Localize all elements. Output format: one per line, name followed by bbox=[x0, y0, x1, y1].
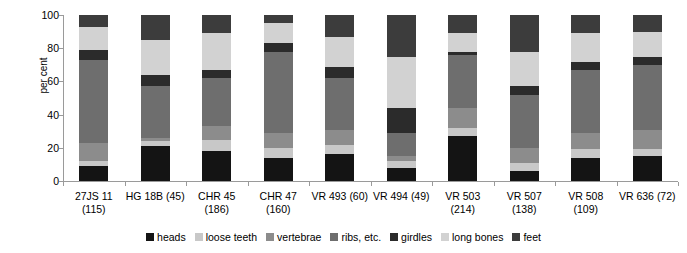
stacked-bar[interactable] bbox=[79, 15, 108, 181]
bar-segment[interactable] bbox=[387, 133, 416, 156]
stacked-bar[interactable] bbox=[510, 15, 539, 181]
bar-group[interactable] bbox=[141, 15, 170, 181]
bar-segment[interactable] bbox=[633, 32, 662, 57]
bar-segment[interactable] bbox=[141, 146, 170, 181]
bar-segment[interactable] bbox=[202, 15, 231, 33]
bar-segment[interactable] bbox=[571, 133, 600, 150]
legend-item[interactable]: heads bbox=[146, 231, 186, 243]
bar-segment[interactable] bbox=[448, 136, 477, 181]
bar-segment[interactable] bbox=[448, 33, 477, 51]
legend-label: heads bbox=[157, 231, 186, 243]
bar-segment[interactable] bbox=[202, 70, 231, 78]
bar-segment[interactable] bbox=[325, 37, 354, 67]
bar-segment[interactable] bbox=[387, 168, 416, 181]
bar-group[interactable] bbox=[633, 15, 662, 181]
stacked-bar[interactable] bbox=[141, 15, 170, 181]
bar-group[interactable] bbox=[325, 15, 354, 181]
bar-segment[interactable] bbox=[141, 40, 170, 75]
bar-segment[interactable] bbox=[387, 108, 416, 133]
bar-segment[interactable] bbox=[510, 171, 539, 181]
legend-label: loose teeth bbox=[206, 231, 257, 243]
stacked-bar[interactable] bbox=[387, 15, 416, 181]
bar-segment[interactable] bbox=[571, 33, 600, 61]
bar-segment[interactable] bbox=[510, 95, 539, 148]
bar-segment[interactable] bbox=[448, 128, 477, 136]
x-tick-label-line: VR 636 (72) bbox=[602, 190, 687, 203]
bar-segment[interactable] bbox=[141, 75, 170, 87]
bar-segment[interactable] bbox=[510, 15, 539, 52]
bar-segment[interactable] bbox=[264, 133, 293, 148]
bar-group[interactable] bbox=[510, 15, 539, 181]
bar-segment[interactable] bbox=[633, 149, 662, 156]
bar-segment[interactable] bbox=[264, 52, 293, 133]
legend-item[interactable]: girdles bbox=[390, 231, 432, 243]
bar-group[interactable] bbox=[202, 15, 231, 181]
bar-segment[interactable] bbox=[79, 15, 108, 27]
bar-segment[interactable] bbox=[448, 108, 477, 128]
stacked-bar[interactable] bbox=[202, 15, 231, 181]
bar-segment[interactable] bbox=[325, 78, 354, 129]
bar-segment[interactable] bbox=[79, 60, 108, 143]
bar-segment[interactable] bbox=[202, 78, 231, 126]
bar-segment[interactable] bbox=[633, 156, 662, 181]
bar-segment[interactable] bbox=[202, 126, 231, 139]
bar-segment[interactable] bbox=[141, 86, 170, 137]
bar-segment[interactable] bbox=[510, 148, 539, 163]
stacked-bar[interactable] bbox=[264, 15, 293, 181]
bar-segment[interactable] bbox=[325, 130, 354, 145]
bar-segment[interactable] bbox=[325, 154, 354, 181]
bar-segment[interactable] bbox=[571, 158, 600, 181]
y-axis-tick-labels: 020406080100 bbox=[33, 0, 59, 253]
legend-item[interactable]: vertebrae bbox=[266, 231, 321, 243]
legend-item[interactable]: long bones bbox=[441, 231, 503, 243]
stacked-bar[interactable] bbox=[448, 15, 477, 181]
legend-label: feet bbox=[523, 231, 541, 243]
bar-segment[interactable] bbox=[325, 145, 354, 155]
bar-segment[interactable] bbox=[448, 15, 477, 33]
bar-segment[interactable] bbox=[79, 166, 108, 181]
bar-segment[interactable] bbox=[264, 23, 293, 43]
bar-group[interactable] bbox=[571, 15, 600, 181]
bar-segment[interactable] bbox=[79, 27, 108, 50]
bar-segment[interactable] bbox=[510, 86, 539, 94]
bar-group[interactable] bbox=[387, 15, 416, 181]
legend-item[interactable]: feet bbox=[512, 231, 541, 243]
bar-segment[interactable] bbox=[571, 62, 600, 70]
stacked-bar-chart: per cent 020406080100 27JS 11(115)HG 18B… bbox=[0, 0, 687, 253]
bar-segment[interactable] bbox=[202, 151, 231, 181]
bar-segment[interactable] bbox=[633, 57, 662, 65]
bar-segment[interactable] bbox=[387, 15, 416, 57]
bar-segment[interactable] bbox=[264, 43, 293, 51]
bar-segment[interactable] bbox=[387, 161, 416, 168]
legend-swatch-icon bbox=[195, 233, 203, 241]
stacked-bar[interactable] bbox=[325, 15, 354, 181]
bar-segment[interactable] bbox=[264, 15, 293, 23]
bar-segment[interactable] bbox=[633, 130, 662, 150]
bar-segment[interactable] bbox=[202, 33, 231, 70]
bar-segment[interactable] bbox=[633, 65, 662, 130]
bar-segment[interactable] bbox=[325, 67, 354, 79]
bar-segment[interactable] bbox=[141, 15, 170, 40]
stacked-bar[interactable] bbox=[571, 15, 600, 181]
bar-group[interactable] bbox=[264, 15, 293, 181]
bar-segment[interactable] bbox=[202, 140, 231, 152]
bar-segment[interactable] bbox=[387, 57, 416, 108]
bar-segment[interactable] bbox=[510, 52, 539, 87]
bar-segment[interactable] bbox=[264, 148, 293, 158]
bar-segment[interactable] bbox=[448, 55, 477, 108]
legend-item[interactable]: loose teeth bbox=[195, 231, 257, 243]
bar-segment[interactable] bbox=[571, 70, 600, 133]
bar-segment[interactable] bbox=[264, 158, 293, 181]
bar-segment[interactable] bbox=[79, 50, 108, 60]
bar-segment[interactable] bbox=[79, 143, 108, 161]
bar-segment[interactable] bbox=[325, 15, 354, 37]
bar-segment[interactable] bbox=[510, 163, 539, 171]
bar-segment[interactable] bbox=[571, 15, 600, 33]
stacked-bar[interactable] bbox=[633, 15, 662, 181]
bar-group[interactable] bbox=[448, 15, 477, 181]
legend-item[interactable]: ribs, etc. bbox=[330, 231, 381, 243]
bar-segment[interactable] bbox=[633, 15, 662, 32]
legend-label: ribs, etc. bbox=[341, 231, 381, 243]
bar-segment[interactable] bbox=[571, 149, 600, 157]
bar-group[interactable] bbox=[79, 15, 108, 181]
